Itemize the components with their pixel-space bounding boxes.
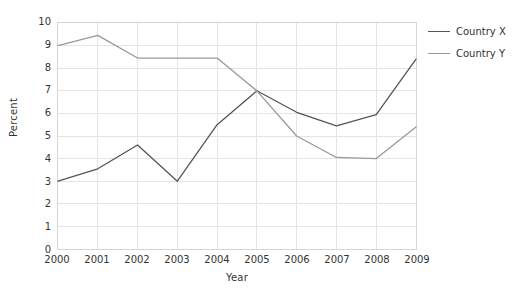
y-tick-label: 9	[45, 40, 51, 50]
y-axis-tick-labels: 012345678910	[0, 22, 51, 250]
y-tick-label: 6	[45, 108, 51, 118]
chart-legend: Country XCountry Y	[428, 22, 518, 66]
series-line-country-y	[58, 35, 416, 158]
y-tick-label: 5	[45, 131, 51, 141]
x-tick-label: 2009	[404, 255, 429, 265]
legend-label: Country X	[456, 26, 506, 37]
y-tick-label: 8	[45, 63, 51, 73]
x-tick-label: 2002	[124, 255, 149, 265]
legend-label: Country Y	[456, 48, 505, 59]
legend-line-swatch	[428, 53, 450, 54]
x-tick-label: 2000	[44, 255, 69, 265]
series-lines	[58, 23, 416, 249]
x-axis-title: Year	[57, 272, 417, 283]
line-chart: Percent 012345678910 2000200120022003200…	[0, 0, 518, 295]
legend-entry[interactable]: Country X	[428, 22, 518, 40]
y-tick-label: 2	[45, 199, 51, 209]
plot-area	[57, 22, 417, 250]
x-axis-tick-labels: 2000200120022003200420052006200720082009	[57, 255, 417, 269]
x-tick-label: 2004	[204, 255, 229, 265]
legend-entry[interactable]: Country Y	[428, 44, 518, 62]
x-tick-label: 2006	[284, 255, 309, 265]
legend-line-swatch	[428, 31, 450, 32]
y-tick-label: 4	[45, 154, 51, 164]
x-tick-label: 2005	[244, 255, 269, 265]
series-line-country-x	[58, 59, 416, 181]
x-tick-label: 2003	[164, 255, 189, 265]
x-tick-label: 2007	[324, 255, 349, 265]
x-tick-label: 2008	[364, 255, 389, 265]
y-tick-label: 7	[45, 85, 51, 95]
y-tick-label: 3	[45, 177, 51, 187]
x-tick-label: 2001	[84, 255, 109, 265]
y-tick-label: 10	[38, 17, 51, 27]
y-tick-label: 1	[45, 222, 51, 232]
